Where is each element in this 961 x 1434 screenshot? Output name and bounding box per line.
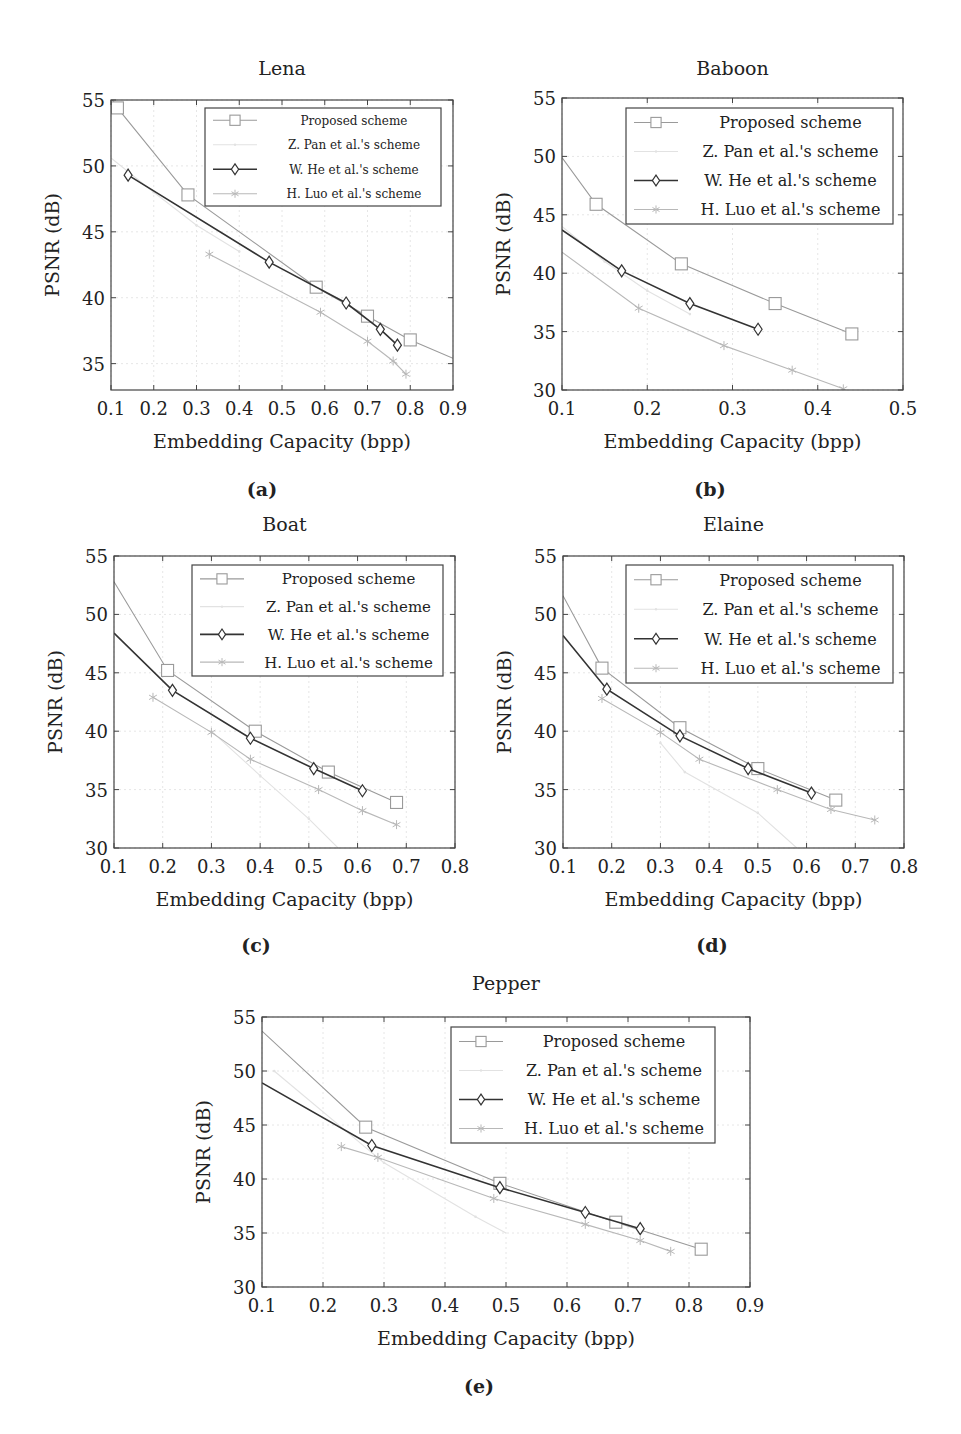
legend-label: Z. Pan et al.'s scheme (526, 1061, 702, 1080)
dot-marker (474, 1216, 477, 1219)
x-tick-label: 0.7 (614, 1295, 643, 1316)
legend-label: H. Luo et al.'s scheme (524, 1119, 704, 1138)
square-marker (695, 1243, 707, 1255)
y-tick-label: 50 (233, 1061, 256, 1082)
star-marker (581, 1220, 589, 1229)
x-tick-label: 0.1 (248, 1295, 277, 1316)
y-tick-label: 35 (233, 1223, 256, 1244)
square-marker (360, 1121, 372, 1133)
legend: Proposed schemeZ. Pan et al.'s schemeW. … (451, 1027, 715, 1143)
star-marker (667, 1247, 675, 1256)
x-tick-label: 0.3 (370, 1295, 399, 1316)
x-tick-label: 0.9 (736, 1295, 765, 1316)
legend-label: W. He et al.'s scheme (528, 1090, 700, 1109)
x-tick-label: 0.5 (492, 1295, 521, 1316)
dot-marker (480, 1069, 482, 1071)
x-tick-label: 0.6 (553, 1295, 582, 1316)
dot-marker (273, 1070, 276, 1073)
chart-title: Pepper (472, 972, 541, 994)
legend-label: Proposed scheme (543, 1032, 686, 1051)
square-marker (476, 1036, 486, 1046)
chart-svg: Pepper0.10.20.30.40.50.60.70.80.93035404… (0, 0, 961, 1434)
star-marker (636, 1236, 644, 1245)
y-tick-label: 40 (233, 1169, 256, 1190)
star-marker (337, 1142, 345, 1151)
y-tick-label: 55 (233, 1007, 256, 1028)
dot-marker (383, 1162, 386, 1165)
diamond-marker (581, 1206, 589, 1218)
x-tick-label: 0.4 (431, 1295, 460, 1316)
x-axis-label: Embedding Capacity (bpp) (377, 1327, 635, 1349)
caption-e: (e) (449, 1375, 509, 1397)
y-tick-label: 30 (233, 1277, 256, 1298)
chart-pepper: Pepper0.10.20.30.40.50.60.70.80.93035404… (0, 0, 961, 1434)
y-tick-label: 45 (233, 1115, 256, 1136)
x-tick-label: 0.2 (309, 1295, 338, 1316)
x-tick-label: 0.8 (675, 1295, 704, 1316)
y-axis-label: PSNR (dB) (192, 1100, 214, 1204)
star-marker (490, 1194, 498, 1203)
